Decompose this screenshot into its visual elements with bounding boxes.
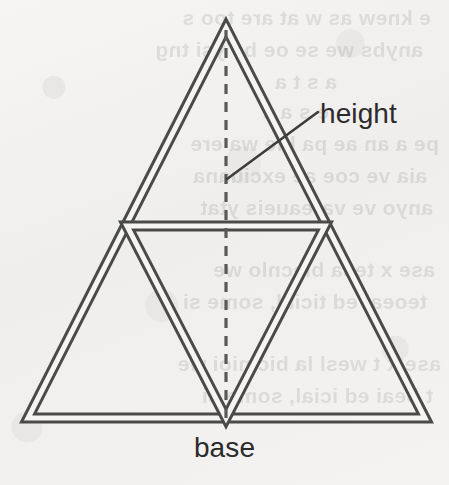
height-label: height — [320, 98, 397, 130]
base-label: base — [0, 432, 449, 464]
diagram-page: e knew as w at are too sanybs we se oe b… — [0, 0, 449, 485]
triangle-figure — [0, 0, 449, 485]
